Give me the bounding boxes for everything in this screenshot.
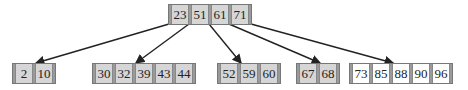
key-cell: 23 bbox=[171, 5, 189, 24]
key-cell: 2 bbox=[15, 64, 33, 83]
key-cell: 71 bbox=[231, 5, 249, 24]
key-cell: 67 bbox=[299, 64, 317, 83]
key-cell: 90 bbox=[412, 64, 430, 83]
edge-arrow bbox=[36, 24, 169, 63]
key-cell: 51 bbox=[191, 5, 209, 24]
key-cell: 96 bbox=[432, 64, 450, 83]
edge-arrow bbox=[209, 24, 241, 63]
key-cell: 61 bbox=[211, 5, 229, 24]
key-cell: 88 bbox=[392, 64, 410, 83]
root-node: 23516171 bbox=[168, 4, 252, 25]
leaf-node: 525960 bbox=[217, 63, 281, 84]
key-cell: 32 bbox=[115, 64, 133, 83]
key-cell: 60 bbox=[260, 64, 278, 83]
key-cell: 43 bbox=[155, 64, 173, 83]
edge-arrow bbox=[136, 24, 189, 63]
key-cell: 39 bbox=[135, 64, 153, 83]
key-cell: 52 bbox=[220, 64, 238, 83]
key-cell: 68 bbox=[319, 64, 337, 83]
key-cell: 10 bbox=[35, 64, 53, 83]
leaf-node: 6768 bbox=[296, 63, 340, 84]
leaf-node: 3032394344 bbox=[92, 63, 196, 84]
key-cell: 44 bbox=[175, 64, 193, 83]
key-cell: 59 bbox=[240, 64, 258, 83]
key-cell: 73 bbox=[352, 64, 370, 83]
key-cell: 30 bbox=[95, 64, 113, 83]
edge-arrow bbox=[251, 24, 393, 63]
key-cell: 85 bbox=[372, 64, 390, 83]
leaf-node-highlighted: 7385889096 bbox=[349, 63, 453, 84]
leaf-node: 210 bbox=[12, 63, 56, 84]
